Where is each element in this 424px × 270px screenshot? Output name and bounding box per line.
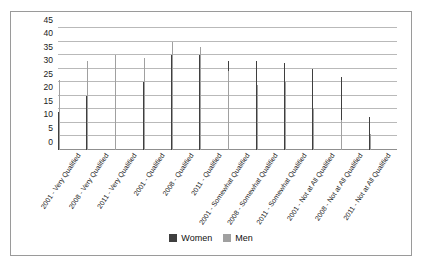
bar-group bbox=[369, 28, 397, 150]
x-axis-category-label: 2001 - Qualified bbox=[133, 152, 166, 197]
x-axis-category-label: 2008 - Somewhat Qualified bbox=[226, 152, 279, 226]
y-axis-tick-label: 0 bbox=[48, 137, 53, 146]
bar-men bbox=[257, 85, 258, 150]
bar-men bbox=[313, 109, 314, 150]
bar-group bbox=[58, 28, 86, 150]
bar-men bbox=[285, 82, 286, 150]
bar-group bbox=[256, 28, 284, 150]
bar-group bbox=[199, 28, 227, 150]
bar-men bbox=[228, 71, 229, 150]
bar-group bbox=[312, 28, 340, 150]
chart-frame: 051015202530354045 2001 - Very Qualified… bbox=[10, 11, 412, 256]
legend-item: Men bbox=[223, 233, 253, 243]
legend-swatch-icon bbox=[169, 234, 177, 242]
x-axis-category-label: 2001 - Not at All Qualified bbox=[285, 152, 335, 222]
bar-men bbox=[87, 61, 88, 150]
bar-men bbox=[341, 120, 342, 150]
bar-group bbox=[284, 28, 312, 150]
bar-men bbox=[172, 42, 173, 150]
bar-group bbox=[86, 28, 114, 150]
legend-label: Men bbox=[235, 233, 253, 243]
x-axis-category-label: 2011 - Somewhat Qualified bbox=[255, 152, 308, 225]
y-axis-tick-label: 20 bbox=[44, 83, 53, 92]
y-axis-tick-label: 25 bbox=[44, 69, 53, 78]
y-axis-tick-label: 15 bbox=[44, 97, 53, 106]
legend-label: Women bbox=[181, 233, 212, 243]
chart-legend: WomenMen bbox=[11, 233, 411, 243]
bar-group bbox=[171, 28, 199, 150]
legend-item: Women bbox=[169, 233, 212, 243]
bar-men bbox=[59, 80, 60, 150]
bar-series-container bbox=[58, 28, 397, 150]
bar-men bbox=[370, 134, 371, 150]
bar-group bbox=[341, 28, 369, 150]
bar-men bbox=[144, 58, 145, 150]
x-axis-category-label: 2011 - Qualified bbox=[189, 152, 222, 196]
y-axis-tick-label: 40 bbox=[44, 29, 53, 38]
y-axis-tick-label: 35 bbox=[44, 42, 53, 51]
bar-group bbox=[115, 28, 143, 150]
bar-group bbox=[228, 28, 256, 150]
y-axis-tick-label: 10 bbox=[44, 110, 53, 119]
x-axis-category-labels: 2001 - Very Qualified2008 - Very Qualifi… bbox=[58, 152, 397, 242]
y-axis-tick-label: 5 bbox=[48, 124, 53, 133]
bar-men bbox=[115, 55, 116, 150]
x-axis-category-label: 2008 - Qualified bbox=[161, 152, 194, 197]
y-axis-tick-label: 30 bbox=[44, 56, 53, 65]
y-axis-tick-label: 45 bbox=[44, 15, 53, 24]
bar-group bbox=[143, 28, 171, 150]
x-axis-category-label: 2008 - Not at All Qualified bbox=[314, 152, 364, 222]
bar-men bbox=[200, 47, 201, 150]
legend-swatch-icon bbox=[223, 234, 231, 242]
x-axis-category-label: 2001 - Somewhat Qualified bbox=[198, 152, 251, 226]
plot-area: 051015202530354045 bbox=[58, 28, 397, 150]
